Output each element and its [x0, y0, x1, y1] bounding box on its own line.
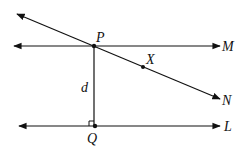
- label-p: P: [95, 30, 105, 45]
- label-m: M: [221, 39, 235, 54]
- label-n: N: [221, 93, 232, 108]
- point-q: [93, 124, 97, 128]
- line-pn: [17, 14, 220, 99]
- point-x: [141, 65, 145, 69]
- label-d: d: [81, 80, 89, 95]
- label-x: X: [145, 52, 155, 67]
- label-l: L: [223, 119, 232, 134]
- geometry-diagram: P M X N d Q L: [0, 0, 246, 157]
- label-q: Q: [87, 131, 97, 146]
